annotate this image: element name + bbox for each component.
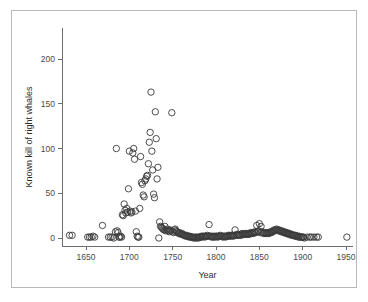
data-point [156,235,162,241]
data-point [131,156,137,162]
scatter-plot: 0501001502001650170017501800185019001950… [12,11,358,289]
data-point [125,186,131,192]
data-point [149,148,155,154]
x-tick-label: 1700 [120,252,139,262]
data-point [146,139,152,145]
data-point [145,161,151,167]
x-tick-label: 1800 [207,252,226,262]
x-tick-label: 1950 [337,252,356,262]
figure-frame-border: 0501001502001650170017501800185019001950… [11,10,357,288]
y-tick-label: 100 [41,144,55,154]
data-point [169,110,175,116]
x-tick-label: 1900 [293,252,312,262]
x-axis-title: Year [198,270,216,280]
data-point [206,221,212,227]
data-point [151,195,157,201]
x-tick-label: 1650 [77,252,96,262]
x-tick-label: 1850 [250,252,269,262]
data-point [152,109,158,115]
y-axis-title: Known kill of right whales [24,86,34,188]
data-point-group [66,89,350,241]
data-point [147,129,153,135]
y-tick-label: 150 [41,99,55,109]
data-point [153,135,159,141]
data-point [148,89,154,95]
data-point [137,153,143,159]
y-tick-label: 0 [50,233,55,243]
figure-canvas: 0501001502001650170017501800185019001950… [0,0,368,302]
y-tick-label: 200 [41,54,55,64]
y-tick-label: 50 [46,188,56,198]
x-tick-label: 1750 [163,252,182,262]
data-point [154,176,160,182]
data-point [99,222,105,228]
data-point [344,234,350,240]
data-point [155,164,161,170]
data-point [113,145,119,151]
